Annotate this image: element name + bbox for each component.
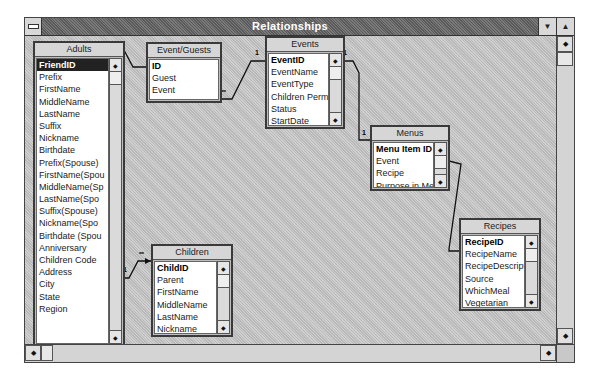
- scroll-right-button[interactable]: ◆: [540, 345, 556, 361]
- field-item[interactable]: EventName: [269, 66, 328, 78]
- field-item[interactable]: State: [37, 291, 108, 303]
- scroll-up-icon[interactable]: ◆: [435, 143, 446, 156]
- scroll-down-icon[interactable]: ◆: [526, 294, 537, 307]
- field-item[interactable]: Children Code: [37, 254, 108, 266]
- horizontal-scroll-thumb[interactable]: [41, 345, 53, 361]
- field-item[interactable]: Birthdate: [37, 144, 108, 156]
- scroll-down-icon[interactable]: ◆: [218, 320, 229, 333]
- field-item[interactable]: EventID: [269, 54, 328, 66]
- field-item[interactable]: LastName: [155, 311, 216, 323]
- minimize-button[interactable]: ▼: [538, 18, 556, 35]
- table-title[interactable]: Adults: [35, 43, 123, 57]
- horizontal-scrollbar[interactable]: ◆ ◆: [25, 344, 556, 362]
- scroll-thumb[interactable]: [218, 275, 229, 288]
- field-scrollbar[interactable]: ◆ ◆: [525, 235, 538, 308]
- table-recipes[interactable]: Recipes RecipeID RecipeName RecipeDescri…: [459, 218, 541, 311]
- vertical-scroll-thumb[interactable]: [557, 52, 573, 66]
- field-item[interactable]: StartDate: [269, 115, 328, 126]
- field-item[interactable]: Vegetarian: [463, 297, 524, 308]
- field-item[interactable]: FriendID: [37, 59, 108, 71]
- field-item[interactable]: Event: [374, 155, 433, 167]
- relationships-canvas[interactable]: ∞ 1 1 1 1 ∞ Adults FriendID Prefix First…: [25, 36, 556, 344]
- field-item[interactable]: ChildID: [155, 262, 216, 274]
- table-event-guests[interactable]: Event/Guests ID Guest Event: [146, 42, 222, 103]
- table-title[interactable]: Events: [267, 38, 343, 52]
- table-title[interactable]: Recipes: [461, 220, 539, 234]
- field-item[interactable]: Address: [37, 266, 108, 278]
- field-item[interactable]: MiddleName(Sp: [37, 181, 108, 193]
- field-item[interactable]: Anniversary: [37, 242, 108, 254]
- field-item[interactable]: Prefix(Spouse): [37, 157, 108, 169]
- field-item[interactable]: Source: [463, 273, 524, 285]
- maximize-button[interactable]: ▲: [556, 18, 574, 35]
- scroll-thumb[interactable]: [435, 156, 446, 169]
- field-list[interactable]: Menu Item ID Event Recipe Purpose in Mea: [373, 142, 434, 188]
- scroll-thumb[interactable]: [110, 72, 121, 85]
- scroll-down-icon[interactable]: ◆: [330, 112, 341, 125]
- field-list[interactable]: ID Guest Event: [149, 59, 219, 100]
- field-item[interactable]: Children Permitt: [269, 91, 328, 103]
- field-item[interactable]: City: [37, 278, 108, 290]
- field-list[interactable]: ChildID Parent FirstName MiddleName Last…: [154, 261, 217, 334]
- field-list[interactable]: EventID EventName EventType Children Per…: [268, 53, 329, 126]
- system-menu-button[interactable]: [25, 18, 42, 35]
- field-item[interactable]: Status: [269, 103, 328, 115]
- field-item[interactable]: LastName: [37, 108, 108, 120]
- window-title: Relationships: [42, 18, 538, 35]
- field-item[interactable]: MiddleName: [37, 96, 108, 108]
- field-item[interactable]: RecipeDescript: [463, 260, 524, 272]
- field-item[interactable]: FirstName: [37, 83, 108, 95]
- vertical-scrollbar[interactable]: ◆ ◆: [556, 36, 574, 344]
- field-scrollbar[interactable]: ◆ ◆: [434, 142, 447, 188]
- field-item[interactable]: MiddleName: [155, 299, 216, 311]
- cardinality-one: 1: [362, 129, 366, 136]
- field-list[interactable]: FriendID Prefix FirstName MiddleName Las…: [36, 58, 109, 344]
- scroll-thumb[interactable]: [330, 67, 341, 80]
- field-scrollbar[interactable]: ◆ ◆: [217, 261, 230, 334]
- field-item[interactable]: FirstName: [155, 286, 216, 298]
- field-item[interactable]: Event: [150, 84, 218, 96]
- table-adults[interactable]: Adults FriendID Prefix FirstName MiddleN…: [33, 41, 125, 344]
- field-item[interactable]: Nickname(Spo: [37, 217, 108, 229]
- scroll-up-icon[interactable]: ◆: [330, 54, 341, 67]
- scroll-down-icon[interactable]: ◆: [435, 174, 446, 187]
- scroll-thumb[interactable]: [526, 249, 537, 262]
- table-events[interactable]: Events EventID EventName EventType Child…: [265, 36, 345, 129]
- field-item[interactable]: Recipe: [374, 167, 433, 179]
- field-scrollbar[interactable]: ◆ ◆: [109, 58, 122, 344]
- field-scrollbar[interactable]: ◆ ◆: [329, 53, 342, 126]
- table-menus[interactable]: Menus Menu Item ID Event Recipe Purpose …: [370, 125, 450, 191]
- scroll-left-button[interactable]: ◆: [25, 345, 41, 361]
- field-item[interactable]: Prefix: [37, 71, 108, 83]
- field-item[interactable]: WhichMeal: [463, 285, 524, 297]
- field-item[interactable]: Birthdate (Spou: [37, 230, 108, 242]
- field-item[interactable]: Guest: [150, 72, 218, 84]
- scroll-up-button[interactable]: ◆: [557, 36, 573, 52]
- system-menu-icon: [28, 24, 39, 29]
- scroll-up-icon[interactable]: ◆: [218, 262, 229, 275]
- table-title[interactable]: Children: [153, 246, 231, 260]
- field-item[interactable]: Parent: [155, 274, 216, 286]
- table-title[interactable]: Event/Guests: [148, 44, 220, 58]
- field-item[interactable]: RecipeID: [463, 236, 524, 248]
- field-item[interactable]: Nickname: [155, 323, 216, 334]
- field-item[interactable]: EventType: [269, 78, 328, 90]
- field-item[interactable]: FirstName(Spou: [37, 169, 108, 181]
- table-title[interactable]: Menus: [372, 127, 448, 141]
- scroll-down-button[interactable]: ◆: [557, 328, 573, 344]
- scroll-up-icon[interactable]: ◆: [526, 236, 537, 249]
- field-item[interactable]: Purpose in Mea: [374, 180, 433, 188]
- field-item[interactable]: Region: [37, 303, 108, 315]
- field-item[interactable]: Nickname: [37, 132, 108, 144]
- field-item[interactable]: RecipeName: [463, 248, 524, 260]
- field-item[interactable]: LastName(Spo: [37, 193, 108, 205]
- title-bar[interactable]: Relationships ▼ ▲: [25, 18, 574, 36]
- field-item[interactable]: Suffix(Spouse): [37, 205, 108, 217]
- field-item[interactable]: ID: [150, 60, 218, 72]
- field-item[interactable]: Suffix: [37, 120, 108, 132]
- field-item[interactable]: Menu Item ID: [374, 143, 433, 155]
- scroll-up-icon[interactable]: ◆: [110, 59, 121, 72]
- scroll-down-icon[interactable]: ◆: [110, 330, 121, 343]
- field-list[interactable]: RecipeID RecipeName RecipeDescript Sourc…: [462, 235, 525, 308]
- table-children[interactable]: Children ChildID Parent FirstName Middle…: [151, 244, 233, 337]
